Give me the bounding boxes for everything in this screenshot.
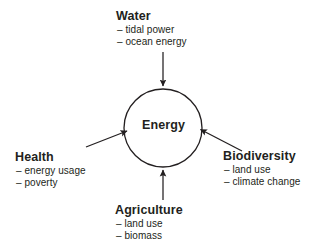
node-agriculture: Agriculture – land use – biomass bbox=[115, 204, 183, 243]
node-health-subitem-2: – poverty bbox=[15, 177, 86, 190]
node-agriculture-title: Agriculture bbox=[115, 204, 183, 217]
node-water-subitem-1: – tidal power bbox=[116, 24, 187, 37]
node-biodiversity-subitem-1: – land use bbox=[223, 164, 300, 177]
node-health: Health – energy usage – poverty bbox=[15, 151, 86, 190]
node-water-title: Water bbox=[116, 10, 187, 23]
node-biodiversity: Biodiversity – land use – climate change bbox=[223, 150, 300, 189]
node-water: Water – tidal power – ocean energy bbox=[116, 10, 187, 49]
node-water-subitem-2: – ocean energy bbox=[116, 36, 187, 49]
energy-center-label: Energy bbox=[0, 118, 327, 132]
node-health-title: Health bbox=[15, 151, 86, 164]
arrow-biodiversity-to-energy bbox=[201, 130, 243, 152]
arrow-health-to-energy bbox=[86, 131, 127, 147]
node-agriculture-subitem-2: – biomass bbox=[115, 230, 183, 243]
node-agriculture-subitem-1: – land use bbox=[115, 218, 183, 231]
node-biodiversity-subitem-2: – climate change bbox=[223, 176, 300, 189]
node-biodiversity-title: Biodiversity bbox=[223, 150, 300, 163]
diagram-canvas: Energy Water – tidal power – ocean energ… bbox=[0, 0, 327, 251]
node-health-subitem-1: – energy usage bbox=[15, 165, 86, 178]
